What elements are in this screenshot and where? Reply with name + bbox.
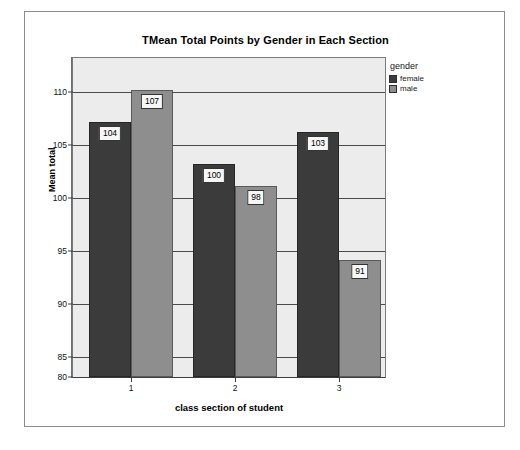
bar-value-label: 107 xyxy=(141,94,163,109)
y-tick-label: 95 xyxy=(58,246,67,256)
legend-item-female[interactable]: female xyxy=(389,74,499,83)
legend-swatch-female-icon xyxy=(389,75,397,83)
y-tick-label: 80 xyxy=(58,372,67,382)
bar-section1-female[interactable]: 104 xyxy=(89,122,131,377)
legend: gender female male xyxy=(389,61,499,94)
x-tick-mark-1 xyxy=(131,377,132,382)
y-axis-title: Mean total xyxy=(47,147,57,192)
x-tick-label: 2 xyxy=(233,383,238,393)
legend-title: gender xyxy=(389,61,499,71)
chart-title: TMean Total Points by Gender in Each Sec… xyxy=(25,34,506,46)
bar-section1-male[interactable]: 107 xyxy=(131,90,173,377)
bar-value-label: 100 xyxy=(203,168,225,183)
bar-value-label: 91 xyxy=(351,264,368,279)
x-axis-title: class section of student xyxy=(72,402,386,413)
x-tick-mark-2 xyxy=(235,377,236,382)
plot-area: 110 105 100 95 90 85 80 104 xyxy=(72,57,386,378)
y-tick-label: 90 xyxy=(58,299,67,309)
x-tick-label: 1 xyxy=(129,383,134,393)
legend-item-male[interactable]: male xyxy=(389,84,499,93)
legend-label-male: male xyxy=(400,84,417,93)
bar-value-label: 104 xyxy=(99,126,121,141)
bar-value-label: 103 xyxy=(307,136,329,151)
y-tick-label: 110 xyxy=(53,87,67,97)
bar-section3-male[interactable]: 91 xyxy=(339,260,381,377)
y-tick-label: 105 xyxy=(53,140,67,150)
x-tick-mark-3 xyxy=(339,377,340,382)
legend-label-female: female xyxy=(400,74,424,83)
bar-section2-female[interactable]: 100 xyxy=(193,164,235,377)
legend-swatch-male-icon xyxy=(389,85,397,93)
gridline-110: 110 xyxy=(73,92,385,93)
bar-section3-female[interactable]: 103 xyxy=(297,132,339,377)
bar-value-label: 98 xyxy=(247,190,264,205)
bar-section2-male[interactable]: 98 xyxy=(235,186,277,377)
y-tick-label: 100 xyxy=(53,193,67,203)
x-tick-label: 3 xyxy=(337,383,342,393)
chart-frame: TMean Total Points by Gender in Each Sec… xyxy=(24,11,505,427)
y-tick-label: 85 xyxy=(58,352,67,362)
